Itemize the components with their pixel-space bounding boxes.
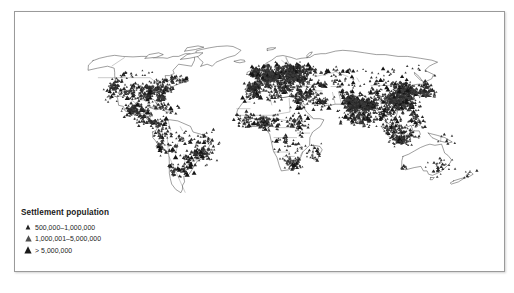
legend-item-medium: 1,000,001–5,000,000 (21, 233, 191, 245)
map-figure-frame: Settlement population 500,000–1,000,000 … (14, 11, 505, 272)
legend-label-small: 500,000–1,000,000 (35, 224, 95, 231)
legend-item-small: 500,000–1,000,000 (21, 222, 191, 234)
map-legend: Settlement population 500,000–1,000,000 … (21, 208, 191, 256)
legend-label-large: > 5,000,000 (35, 247, 72, 254)
triangle-small-icon (21, 223, 35, 231)
legend-label-medium: 1,000,001–5,000,000 (35, 235, 101, 242)
legend-item-large: > 5,000,000 (21, 245, 191, 257)
legend-title: Settlement population (21, 208, 191, 217)
triangle-medium-icon (21, 234, 35, 243)
triangle-large-icon (21, 245, 35, 255)
